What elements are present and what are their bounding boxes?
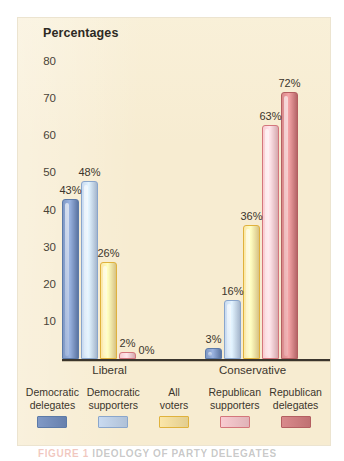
bar-highlight <box>208 352 212 356</box>
bar-highlight <box>65 203 69 356</box>
bar-highlight <box>265 129 269 356</box>
legend: DemocraticdelegatesDemocraticsupportersA… <box>22 386 326 428</box>
bar-highlight <box>227 304 231 356</box>
legend-label-line1: Democratic <box>26 386 79 399</box>
x-axis-line <box>62 359 330 361</box>
bar-value-label: 16% <box>216 285 249 297</box>
legend-swatch <box>98 416 128 428</box>
legend-label-line2: supporters <box>88 399 138 412</box>
chart-screenshot: Percentages 8070605040302010 43%48%26%2%… <box>0 0 344 461</box>
bar-value-label: 63% <box>254 110 287 122</box>
bar <box>262 125 279 359</box>
legend-swatch <box>37 416 67 428</box>
legend-item[interactable]: Democraticsupporters <box>83 386 144 428</box>
legend-swatch <box>159 416 189 428</box>
legend-label-line2: voters <box>160 399 189 412</box>
bar-value-label: 3% <box>197 333 230 345</box>
legend-label-line2: delegates <box>273 399 319 412</box>
bar-value-label: 72% <box>273 77 306 89</box>
figure-caption: FIGURE 1 IDEOLOGY OF PARTY DELEGATES <box>18 449 330 461</box>
bar <box>224 300 241 359</box>
figure-caption-text: FIGURE 1 IDEOLOGY OF PARTY DELEGATES <box>38 449 277 459</box>
bar-value-label: 36% <box>235 210 268 222</box>
legend-label-line1: All <box>168 386 180 399</box>
bar-value-label: 0% <box>130 344 163 356</box>
legend-label-line2: delegates <box>30 399 76 412</box>
legend-item[interactable]: Democraticdelegates <box>22 386 83 428</box>
legend-swatch <box>220 416 250 428</box>
x-axis-group-label: Conservative <box>205 364 300 376</box>
legend-item[interactable]: Republicansupporters <box>204 386 265 428</box>
legend-label-line2: supporters <box>210 399 260 412</box>
bar-highlight <box>103 266 107 356</box>
legend-swatch <box>281 416 311 428</box>
bar-value-label: 43% <box>54 184 87 196</box>
legend-label-line1: Democratic <box>87 386 140 399</box>
bar-value-label: 26% <box>92 247 125 259</box>
bar <box>81 181 98 359</box>
legend-item[interactable]: Allvoters <box>144 386 205 428</box>
bar <box>62 199 79 359</box>
x-axis-group-label: Liberal <box>62 364 157 376</box>
legend-label-line1: Republican <box>209 386 262 399</box>
bar-highlight <box>84 185 88 356</box>
bar <box>281 92 298 359</box>
bar-highlight <box>284 96 288 356</box>
legend-label-line1: Republican <box>269 386 322 399</box>
legend-item[interactable]: Republicandelegates <box>265 386 326 428</box>
bar-value-label: 48% <box>73 166 106 178</box>
bar <box>205 348 222 359</box>
bars-layer <box>0 0 344 359</box>
